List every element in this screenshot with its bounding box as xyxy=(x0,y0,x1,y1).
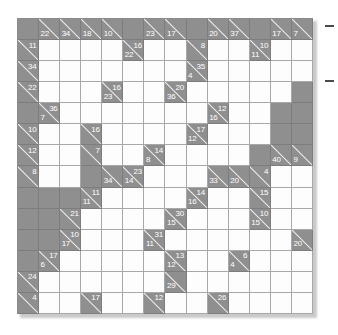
entry-cell[interactable] xyxy=(60,145,81,166)
entry-cell[interactable] xyxy=(229,209,250,230)
entry-cell[interactable] xyxy=(60,124,81,145)
entry-cell[interactable] xyxy=(208,40,229,61)
entry-cell[interactable] xyxy=(187,166,208,187)
entry-cell[interactable] xyxy=(187,145,208,166)
entry-cell[interactable] xyxy=(165,61,186,82)
entry-cell[interactable] xyxy=(208,145,229,166)
entry-cell[interactable] xyxy=(81,209,102,230)
entry-cell[interactable] xyxy=(271,40,292,61)
entry-cell[interactable] xyxy=(271,293,292,314)
entry-cell[interactable] xyxy=(102,272,123,293)
entry-cell[interactable] xyxy=(81,61,102,82)
entry-cell[interactable] xyxy=(123,209,144,230)
entry-cell[interactable] xyxy=(123,230,144,251)
entry-cell[interactable] xyxy=(187,82,208,103)
entry-cell[interactable] xyxy=(271,272,292,293)
entry-cell[interactable] xyxy=(81,103,102,124)
entry-cell[interactable] xyxy=(102,230,123,251)
entry-cell[interactable] xyxy=(165,166,186,187)
entry-cell[interactable] xyxy=(187,251,208,272)
entry-cell[interactable] xyxy=(165,145,186,166)
entry-cell[interactable] xyxy=(102,251,123,272)
entry-cell[interactable] xyxy=(229,272,250,293)
entry-cell[interactable] xyxy=(144,272,165,293)
entry-cell[interactable] xyxy=(81,40,102,61)
entry-cell[interactable] xyxy=(60,82,81,103)
entry-cell[interactable] xyxy=(229,103,250,124)
entry-cell[interactable] xyxy=(39,61,60,82)
entry-cell[interactable] xyxy=(250,124,271,145)
entry-cell[interactable] xyxy=(60,40,81,61)
entry-cell[interactable] xyxy=(165,124,186,145)
entry-cell[interactable] xyxy=(292,40,313,61)
entry-cell[interactable] xyxy=(208,82,229,103)
entry-cell[interactable] xyxy=(39,124,60,145)
entry-cell[interactable] xyxy=(271,61,292,82)
entry-cell[interactable] xyxy=(250,293,271,314)
entry-cell[interactable] xyxy=(102,40,123,61)
entry-cell[interactable] xyxy=(271,230,292,251)
entry-cell[interactable] xyxy=(102,103,123,124)
entry-cell[interactable] xyxy=(229,40,250,61)
entry-cell[interactable] xyxy=(229,124,250,145)
entry-cell[interactable] xyxy=(39,272,60,293)
entry-cell[interactable] xyxy=(229,145,250,166)
entry-cell[interactable] xyxy=(144,166,165,187)
entry-cell[interactable] xyxy=(229,230,250,251)
entry-cell[interactable] xyxy=(144,103,165,124)
entry-cell[interactable] xyxy=(292,209,313,230)
entry-cell[interactable] xyxy=(144,61,165,82)
entry-cell[interactable] xyxy=(39,145,60,166)
entry-cell[interactable] xyxy=(60,251,81,272)
entry-cell[interactable] xyxy=(187,209,208,230)
entry-cell[interactable] xyxy=(208,230,229,251)
entry-cell[interactable] xyxy=(208,209,229,230)
entry-cell[interactable] xyxy=(123,293,144,314)
entry-cell[interactable] xyxy=(250,272,271,293)
entry-cell[interactable] xyxy=(60,166,81,187)
entry-cell[interactable] xyxy=(102,61,123,82)
entry-cell[interactable] xyxy=(292,251,313,272)
entry-cell[interactable] xyxy=(102,293,123,314)
entry-cell[interactable] xyxy=(292,272,313,293)
entry-cell[interactable] xyxy=(271,82,292,103)
entry-cell[interactable] xyxy=(187,272,208,293)
entry-cell[interactable] xyxy=(123,251,144,272)
entry-cell[interactable] xyxy=(271,209,292,230)
entry-cell[interactable] xyxy=(102,188,123,209)
entry-cell[interactable] xyxy=(144,124,165,145)
entry-cell[interactable] xyxy=(144,40,165,61)
entry-cell[interactable] xyxy=(144,251,165,272)
entry-cell[interactable] xyxy=(123,145,144,166)
entry-cell[interactable] xyxy=(208,251,229,272)
entry-cell[interactable] xyxy=(208,61,229,82)
entry-cell[interactable] xyxy=(229,293,250,314)
kakuro-grid[interactable]: 2234181023172037177111622810113435422162… xyxy=(17,18,313,314)
entry-cell[interactable] xyxy=(123,103,144,124)
entry-cell[interactable] xyxy=(229,82,250,103)
entry-cell[interactable] xyxy=(144,82,165,103)
entry-cell[interactable] xyxy=(271,251,292,272)
entry-cell[interactable] xyxy=(250,61,271,82)
entry-cell[interactable] xyxy=(102,145,123,166)
entry-cell[interactable] xyxy=(81,230,102,251)
entry-cell[interactable] xyxy=(187,103,208,124)
entry-cell[interactable] xyxy=(250,230,271,251)
entry-cell[interactable] xyxy=(165,103,186,124)
entry-cell[interactable] xyxy=(123,61,144,82)
entry-cell[interactable] xyxy=(165,230,186,251)
entry-cell[interactable] xyxy=(144,209,165,230)
entry-cell[interactable] xyxy=(102,209,123,230)
entry-cell[interactable] xyxy=(208,188,229,209)
entry-cell[interactable] xyxy=(292,293,313,314)
entry-cell[interactable] xyxy=(271,166,292,187)
entry-cell[interactable] xyxy=(165,188,186,209)
entry-cell[interactable] xyxy=(81,82,102,103)
entry-cell[interactable] xyxy=(60,272,81,293)
entry-cell[interactable] xyxy=(250,251,271,272)
entry-cell[interactable] xyxy=(123,272,144,293)
entry-cell[interactable] xyxy=(81,251,102,272)
entry-cell[interactable] xyxy=(208,272,229,293)
entry-cell[interactable] xyxy=(229,61,250,82)
entry-cell[interactable] xyxy=(60,293,81,314)
